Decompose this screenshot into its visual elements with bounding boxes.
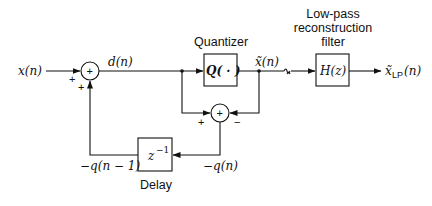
quantizer-expr: Q( · ) — [206, 64, 240, 78]
difference-signal-label: d(n) — [108, 55, 133, 69]
sum2-sign-minus: − — [234, 116, 240, 128]
quantizer-block: Q( · ) — [204, 54, 240, 86]
filter-label-line1: Low-pass — [306, 7, 360, 21]
svg-text:LP: LP — [392, 70, 403, 80]
delay-label: Delay — [140, 178, 173, 192]
signal-break-icon — [284, 69, 290, 74]
block-diagram: x(n) + + + d(n) Quantizer Q( · ) x̃(n) L… — [0, 0, 432, 206]
sum2-sign-plus: + — [198, 116, 204, 128]
delay-expr-base: z — [147, 149, 155, 163]
sum1-sign-top: + — [69, 73, 75, 85]
delay-block: z −1 — [138, 138, 172, 171]
svg-text:x̃: x̃ — [385, 64, 392, 78]
neg-error-delayed-label: −q(n − 1) — [80, 159, 140, 173]
summing-junction-1: + — [81, 62, 99, 80]
input-signal-label: x(n) — [18, 64, 42, 78]
neg-error-line — [173, 122, 220, 155]
quantizer-label: Quantizer — [194, 35, 248, 49]
neg-error-label: −q(n) — [203, 159, 238, 173]
summing-junction-2: + — [211, 104, 229, 122]
sum1-sign-bottom: + — [78, 81, 84, 93]
delay-expr-exp: −1 — [156, 145, 169, 155]
filter-block: H(z) — [316, 54, 349, 86]
output-signal-label: x̃ LP (n) — [385, 64, 421, 80]
filter-label-line2: reconstruction — [294, 21, 373, 35]
sum2-plus-icon: + — [217, 107, 223, 119]
quantized-signal-label: x̃(n) — [255, 55, 279, 69]
feedback-line — [90, 81, 138, 155]
filter-label-line3: filter — [321, 35, 345, 49]
filter-expr: H(z) — [319, 64, 346, 78]
svg-text:(n): (n) — [404, 64, 421, 78]
sum1-plus-icon: + — [87, 65, 93, 77]
